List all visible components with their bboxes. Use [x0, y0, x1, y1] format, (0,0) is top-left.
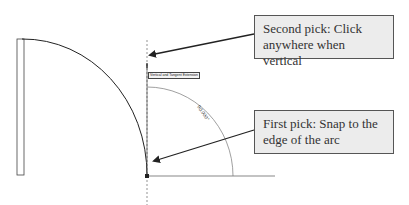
- arrow-first-pick: [154, 130, 254, 161]
- snap-tooltip: Vertical and Tangent Extension: [148, 72, 200, 79]
- swing-arc: [22, 39, 147, 176]
- callout-first-pick: First pick: Snap to the edge of the arc: [254, 110, 394, 154]
- arrow-second-pick: [150, 34, 254, 55]
- door-panel: [17, 39, 24, 175]
- angle-dimension-arc: [147, 87, 233, 176]
- callout-second-pick: Second pick: Click anywhere when vertica…: [254, 15, 394, 59]
- snap-point-marker[interactable]: [145, 174, 149, 178]
